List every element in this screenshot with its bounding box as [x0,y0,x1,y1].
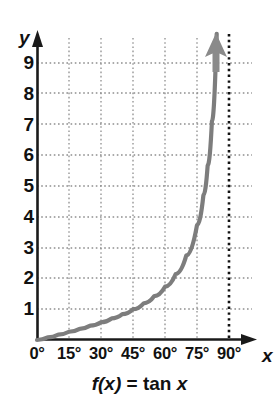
y-tick-label-1: 1 [14,299,34,318]
y-tick-label-6: 6 [14,145,34,164]
x-tick-label-90deg: 90° [217,345,241,362]
y-tick-label-9: 9 [14,53,34,72]
x-tick-label-45deg: 45° [121,345,145,362]
tan-curve [37,34,217,340]
x-tick-label-15deg: 15° [57,345,81,362]
y-tick-label-8: 8 [14,84,34,103]
curve-arrowhead [205,33,227,72]
y-tick-label-5: 5 [14,176,34,195]
y-tick-label-4: 4 [14,207,34,226]
caption-equals: = [127,373,138,394]
vertical-gridlines [69,38,197,340]
y-tick-label-7: 7 [14,115,34,134]
x-tick-label-60deg: 60° [153,345,177,362]
x-tick-label-0deg: 0° [30,345,45,362]
x-tick-label-75deg: 75° [185,345,209,362]
tangent-function-figure: y x 123456789 0°15°30°45°60°75°90° f(x) … [0,0,279,409]
caption-trig-name: tan [143,373,172,394]
x-tick-label-30deg: 30° [89,345,113,362]
x-tick-label-group: 0°15°30°45°60°75°90° [0,343,279,365]
y-tick-label-3: 3 [14,238,34,257]
figure-caption: f(x) = tan x [0,374,279,393]
y-tick-label-2: 2 [14,268,34,287]
caption-function-name: f(x) [92,373,122,394]
caption-variable: x [177,373,188,394]
